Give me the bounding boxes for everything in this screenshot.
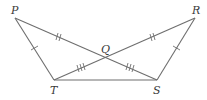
label-S: S bbox=[153, 84, 161, 97]
label-P: P bbox=[10, 4, 19, 17]
geometry-diagram: P R Q T S bbox=[0, 0, 207, 100]
segment-RT bbox=[54, 18, 195, 80]
segment-RS bbox=[157, 18, 195, 80]
segment-PS bbox=[15, 18, 157, 80]
tick-mark-RS bbox=[173, 46, 180, 50]
label-T: T bbox=[50, 84, 59, 97]
segment-PT bbox=[15, 18, 54, 80]
label-R: R bbox=[191, 4, 200, 17]
label-Q: Q bbox=[101, 43, 110, 56]
triple-tick-TQ bbox=[77, 63, 85, 72]
